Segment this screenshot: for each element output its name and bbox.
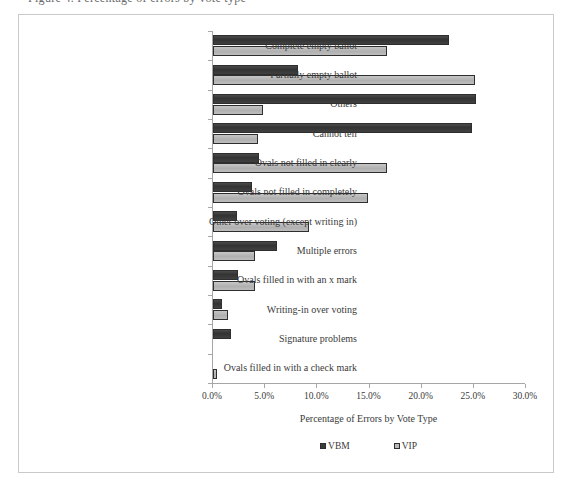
light-square-swatch	[394, 443, 400, 449]
y-axis-tick	[208, 207, 212, 208]
category-label: Writing-in over voting	[267, 305, 357, 315]
y-axis-tick	[208, 324, 212, 325]
x-tick-label: 5.0%	[254, 391, 274, 401]
x-axis-tick	[473, 384, 474, 388]
cut-off-header: Figure 4. Percentage of errors by vote t…	[0, 0, 572, 8]
category-label: Partially empty ballot	[270, 70, 357, 80]
bar-vbm	[213, 270, 238, 280]
category-label: Ovals filled in with an x mark	[237, 275, 357, 285]
legend-label: VIP	[402, 441, 417, 451]
y-axis-tick	[208, 295, 212, 296]
bar-vbm	[213, 329, 231, 339]
x-axis-tick	[525, 384, 526, 388]
category-label: Others	[330, 99, 357, 109]
x-axis-tick	[264, 384, 265, 388]
y-axis-tick	[208, 266, 212, 267]
category-label: Signature problems	[279, 334, 357, 344]
chart-legend: VBMVIP	[212, 439, 525, 451]
category-label: Cannot tell	[313, 129, 357, 139]
x-axis-tick	[316, 384, 317, 388]
x-axis-tick	[212, 384, 213, 388]
bar-vbm	[213, 299, 222, 309]
dark-square-swatch	[320, 443, 326, 449]
plot-area	[212, 31, 525, 383]
x-tick-label: 0.0%	[202, 391, 222, 401]
bar-vbm	[213, 153, 259, 163]
chart-frame: Complete empty ballotPartially empty bal…	[18, 14, 554, 473]
x-axis-tick	[369, 384, 370, 388]
y-axis-tick	[208, 90, 212, 91]
x-tick-label: 10.0%	[304, 391, 329, 401]
y-axis-tick	[208, 354, 212, 355]
bar-vip	[213, 310, 228, 320]
y-axis-tick	[208, 119, 212, 120]
category-label: Multiple errors	[297, 246, 357, 256]
legend-item: VIP	[394, 439, 417, 451]
bar-vip	[213, 134, 258, 144]
y-axis-tick	[208, 31, 212, 32]
x-tick-label: 30.0%	[513, 391, 538, 401]
category-label: Ovals not filled in completely	[238, 187, 357, 197]
bar-vip	[213, 105, 263, 115]
bar-vip	[213, 251, 255, 261]
x-axis-tick	[421, 384, 422, 388]
legend-label: VBM	[328, 441, 350, 451]
legend-item: VBM	[320, 439, 350, 451]
x-axis-title: Percentage of Errors by Vote Type	[212, 413, 525, 424]
x-tick-label: 25.0%	[461, 391, 486, 401]
bar-vbm	[213, 241, 277, 251]
category-label: Other over voting (except writing in)	[209, 217, 357, 227]
x-tick-label: 15.0%	[356, 391, 381, 401]
y-axis-tick	[208, 178, 212, 179]
bar-vip	[213, 369, 217, 379]
category-label: Complete empty ballot	[265, 41, 357, 51]
category-label: Ovals not filled in clearly	[255, 158, 357, 168]
category-label: Ovals filled in with a check mark	[224, 363, 357, 373]
y-axis-tick	[208, 60, 212, 61]
cut-off-header-text: Figure 4. Percentage of errors by vote t…	[28, 0, 246, 6]
x-tick-label: 20.0%	[408, 391, 433, 401]
y-axis-tick	[208, 236, 212, 237]
y-axis-tick	[208, 148, 212, 149]
